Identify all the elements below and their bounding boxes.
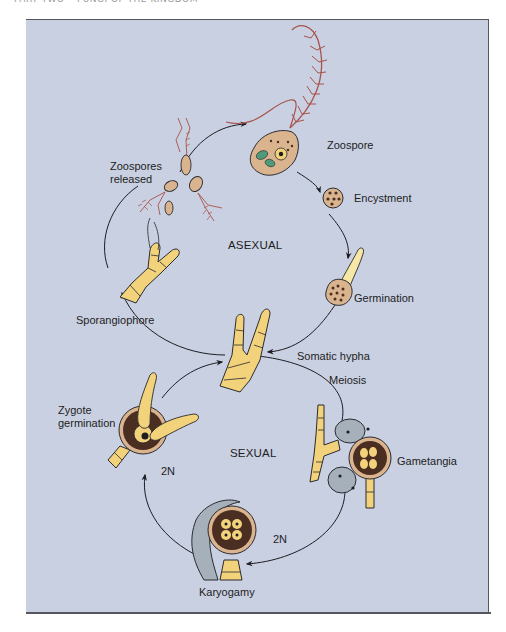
gametangia	[310, 405, 391, 508]
label-gametangia: Gametangia	[397, 455, 457, 468]
label-meiosis: Meiosis	[329, 374, 366, 387]
label-somatic-hypha: Somatic hypha	[297, 350, 370, 363]
label-ploidy-bottom: 2N	[273, 533, 287, 546]
label-germination: Germination	[354, 292, 414, 305]
label-ploidy-left: 2N	[161, 465, 175, 478]
label-sexual-cycle: SEXUAL	[230, 447, 277, 460]
somatic-hypha	[220, 309, 270, 392]
germinating-zygote	[108, 373, 199, 468]
label-zoospores-released: Zoospores released	[110, 160, 162, 186]
zoospore-illustration	[226, 26, 327, 176]
label-sporangiophore: Sporangiophore	[76, 314, 154, 327]
karyogamy-zygote	[192, 500, 256, 580]
label-zygote-germination: Zygote germination	[58, 404, 115, 430]
label-zoospore: Zoospore	[327, 139, 373, 152]
label-asexual-cycle: ASEXUAL	[228, 239, 282, 252]
encystment-cyst	[323, 188, 343, 208]
sporangiophore	[120, 218, 179, 303]
label-karyogamy: Karyogamy	[199, 586, 255, 599]
label-encystment: Encystment	[354, 192, 411, 205]
